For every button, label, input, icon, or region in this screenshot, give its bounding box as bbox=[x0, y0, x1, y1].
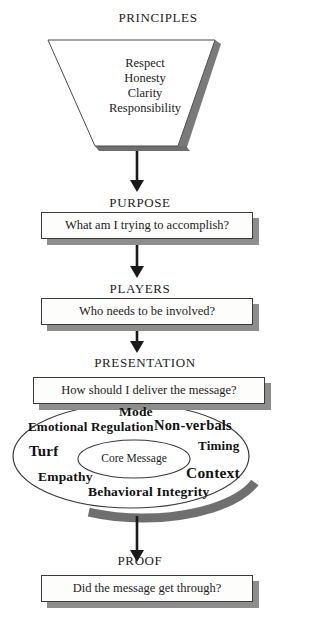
presentation-question-box[interactable]: How should I deliver the message? bbox=[33, 377, 265, 404]
funnel-principle-respect: Respect bbox=[0, 56, 290, 72]
funnel-shadow-bottom bbox=[95, 146, 190, 151]
oval-term-turf: Turf bbox=[29, 443, 58, 460]
oval-term-timing: Timing bbox=[198, 438, 239, 454]
oval-term-behavioral-integrity: Behavioral Integrity bbox=[88, 484, 209, 500]
heading-purpose: PURPOSE bbox=[0, 195, 280, 211]
heading-players: PLAYERS bbox=[0, 281, 280, 297]
oval-term-mode: Mode bbox=[119, 404, 153, 420]
oval-term-emotional-regulation: Emotional Regulation bbox=[28, 419, 154, 435]
heading-presentation: PRESENTATION bbox=[0, 355, 290, 371]
funnel-principle-clarity: Clarity bbox=[0, 86, 290, 102]
heading-proof: PROOF bbox=[0, 553, 280, 569]
purpose-question-box[interactable]: What am I trying to accomplish? bbox=[41, 212, 253, 239]
players-question-box[interactable]: Who needs to be involved? bbox=[41, 298, 253, 325]
proof-question-box[interactable]: Did the message get through? bbox=[41, 575, 253, 602]
funnel-principle-responsibility: Responsibility bbox=[0, 101, 290, 117]
oval-term-non-verbals: Non-verbals bbox=[154, 417, 232, 434]
oval-term-empathy: Empathy bbox=[38, 469, 93, 485]
core-message-label: Core Message bbox=[78, 452, 190, 464]
heading-principles: PRINCIPLES bbox=[0, 10, 316, 26]
funnel-principle-honesty: Honesty bbox=[0, 71, 290, 87]
oval-term-context: Context bbox=[186, 464, 240, 482]
arrow-principles-to-purpose bbox=[130, 151, 144, 192]
arrow-purpose-to-players bbox=[130, 245, 144, 278]
